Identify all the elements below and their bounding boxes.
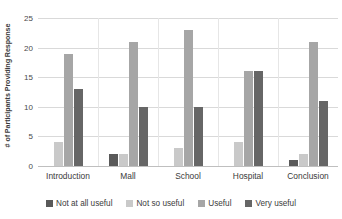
legend-swatch-icon (126, 200, 133, 207)
x-axis-tick-label: School (158, 168, 218, 184)
y-axis-tick-label: 10 (24, 102, 33, 111)
category-separator (218, 18, 219, 166)
bars-layer (38, 18, 338, 166)
legend-label: Not so useful (136, 199, 184, 208)
gridline (38, 166, 338, 167)
bar (319, 101, 328, 166)
legend-swatch-icon (46, 200, 53, 207)
bar-group (278, 18, 338, 166)
category-separator (158, 18, 159, 166)
y-axis-tick-label: 15 (24, 73, 33, 82)
legend-label: Not at all useful (56, 199, 112, 208)
bar (129, 42, 138, 166)
y-axis-title: # of Participants Providing Response (0, 0, 16, 170)
bar-group (38, 18, 98, 166)
bar (254, 71, 263, 166)
x-axis-tick-label: Conclusion (278, 168, 338, 184)
bar (299, 154, 308, 166)
bar (184, 30, 193, 166)
y-axis-tick-label: 0 (29, 162, 33, 171)
bar (54, 142, 63, 166)
legend-item[interactable]: Useful (198, 199, 231, 208)
legend-item[interactable]: Very useful (245, 199, 296, 208)
y-axis-tick-label: 25 (24, 14, 33, 23)
y-axis-tick-labels: 2520151050 (16, 18, 36, 166)
legend-swatch-icon (245, 200, 252, 207)
bar (64, 54, 73, 166)
x-axis-tick-labels: IntroductionMallSchoolHospitalConclusion (38, 168, 338, 184)
bar (119, 154, 128, 166)
bar (244, 71, 253, 166)
x-axis-tick-label: Hospital (218, 168, 278, 184)
y-axis-tick-label: 5 (29, 132, 33, 141)
bar (74, 89, 83, 166)
bar (174, 148, 183, 166)
chart-legend: Not at all usefulNot so usefulUsefulVery… (0, 195, 342, 211)
bar (234, 142, 243, 166)
bar-group (158, 18, 218, 166)
bar (289, 160, 298, 166)
category-separator (278, 18, 279, 166)
legend-label: Very useful (255, 199, 296, 208)
bar-group (98, 18, 158, 166)
bar (309, 42, 318, 166)
category-separator (98, 18, 99, 166)
plot-area (38, 18, 338, 166)
legend-item[interactable]: Not so useful (126, 199, 184, 208)
x-axis-tick-label: Introduction (38, 168, 98, 184)
y-axis-tick-label: 20 (24, 43, 33, 52)
legend-swatch-icon (198, 200, 205, 207)
bar-group (218, 18, 278, 166)
x-axis-tick-label: Mall (98, 168, 158, 184)
bar (194, 107, 203, 166)
bar-chart: # of Participants Providing Response 252… (0, 0, 342, 219)
legend-label: Useful (208, 199, 231, 208)
bar (109, 154, 118, 166)
legend-item[interactable]: Not at all useful (46, 199, 112, 208)
bar (139, 107, 148, 166)
y-axis-title-text: # of Participants Providing Response (4, 23, 13, 147)
